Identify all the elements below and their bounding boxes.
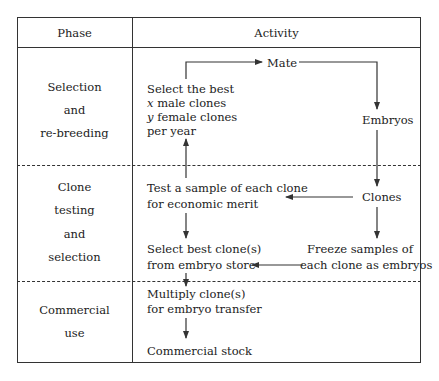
arrow-mate-to-embryos	[299, 62, 377, 109]
arrow-select-to-mate	[186, 62, 262, 79]
flow-arrows	[0, 0, 439, 381]
